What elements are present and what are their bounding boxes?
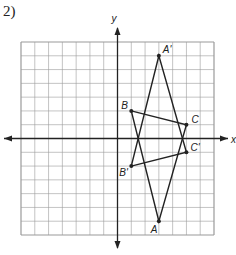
vertex-label: C' (190, 142, 200, 153)
vertex-point (157, 54, 161, 58)
vertex-label: A (150, 224, 158, 235)
vertex-label: B (121, 100, 128, 111)
x-axis-left-arrow-icon (4, 136, 12, 142)
y-axis-up-arrow-icon (115, 27, 121, 35)
vertex-point (184, 150, 188, 154)
vertex-point (157, 219, 161, 223)
coordinate-plane: xyABCA'B'C' (0, 0, 236, 255)
vertex-label: B' (119, 167, 129, 178)
vertex-point (129, 109, 133, 113)
vertex-point (129, 164, 133, 168)
x-axis-label: x (230, 134, 236, 145)
x-axis-right-arrow-icon (220, 136, 228, 142)
vertex-point (184, 123, 188, 127)
vertex-label: A' (162, 44, 173, 55)
vertex-label: C (191, 114, 199, 125)
y-axis-label: y (111, 13, 118, 24)
y-axis-down-arrow-icon (115, 241, 121, 249)
